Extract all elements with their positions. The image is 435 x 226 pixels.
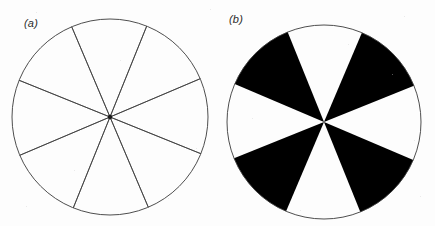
figure-panel-a: (a): [0, 0, 218, 226]
disc-center-dot: [108, 115, 112, 119]
disc-sector: [324, 33, 414, 122]
disc-sector: [324, 122, 413, 212]
disc-sector: [235, 32, 324, 122]
figure-board: (a) (b): [0, 0, 435, 226]
disc-sector: [234, 122, 324, 211]
sector-disc-outline: [0, 0, 218, 226]
sector-disc-filled: [218, 0, 435, 226]
figure-panel-b: (b): [218, 0, 435, 226]
